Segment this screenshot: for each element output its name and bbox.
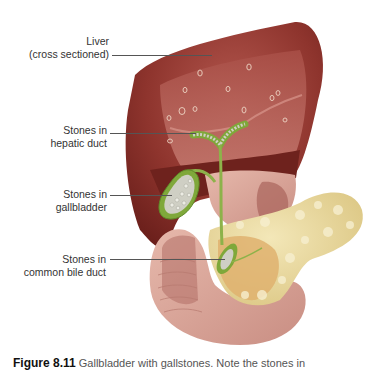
- label-liver: Liver (cross sectioned): [29, 35, 109, 60]
- leader-line-common-bile-duct: [110, 259, 225, 260]
- leader-line-liver: [112, 55, 212, 56]
- caption-text: Gallbladder with gallstones. Note the st…: [79, 357, 305, 369]
- label-hepatic-duct: Stones in hepatic duct: [50, 124, 107, 149]
- figure-caption: Figure 8.11 Gallbladder with gallstones.…: [13, 356, 305, 370]
- leader-line-gallbladder: [110, 195, 172, 196]
- label-gallbladder: Stones in gallbladder: [56, 188, 107, 213]
- figure-number: Figure 8.11: [13, 356, 76, 370]
- leader-line-hepatic-duct: [110, 133, 196, 134]
- label-common-bile-duct: Stones in common bile duct: [24, 253, 106, 278]
